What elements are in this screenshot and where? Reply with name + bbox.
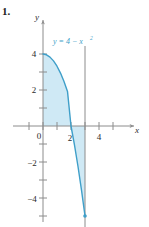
y-tick-label-neg2: −2 — [27, 158, 37, 168]
x-tick-label-0: 0 — [37, 131, 42, 141]
y-axis-label: y — [34, 12, 39, 22]
figure-container: 1. — [0, 0, 149, 227]
y-tick-label-4: 4 — [32, 49, 37, 59]
x-tick-label-4: 4 — [97, 132, 102, 142]
x-tick-label-2: 2 — [68, 133, 73, 143]
x-axis-label: x — [134, 125, 139, 135]
equation-label-exponent: 2 — [90, 35, 93, 41]
equation-annotation: y = 4 − x 2 — [52, 35, 93, 46]
curve-endpoint-marker — [83, 214, 87, 218]
x-tick-labels: 0 2 4 — [37, 131, 102, 143]
shaded-area-group — [43, 54, 85, 216]
y-tick-label-neg4: −4 — [27, 194, 37, 204]
equation-label-text: y = 4 − x — [52, 37, 83, 46]
y-tick-label-2: 2 — [32, 85, 37, 95]
graph-plot: 0 2 4 4 2 −2 −4 x y y = 4 − x 2 — [0, 0, 149, 227]
